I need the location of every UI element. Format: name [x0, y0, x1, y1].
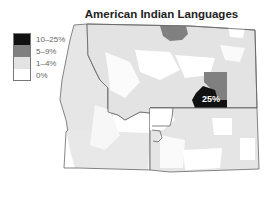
state-wyoming	[150, 108, 259, 172]
choropleth-map	[0, 0, 277, 208]
state-montana	[87, 24, 257, 120]
annotation-25-percent: 25%	[202, 94, 220, 104]
